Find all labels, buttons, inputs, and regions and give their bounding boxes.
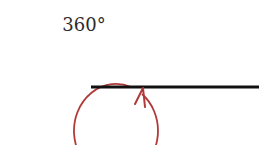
angle-diagram: 360°: [0, 0, 273, 145]
rotation-arc: [74, 84, 158, 145]
arrowhead-icon: [135, 88, 145, 107]
angle-label: 360°: [62, 14, 105, 35]
